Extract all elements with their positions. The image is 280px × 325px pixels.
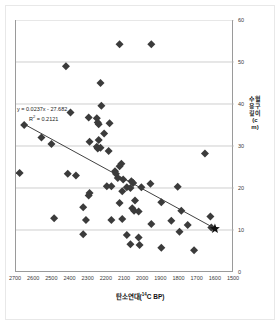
x-tick-label-2300: 2300 (82, 275, 94, 282)
data-point (118, 215, 126, 223)
y-tick-label-20: 20 (238, 185, 244, 191)
data-point (126, 240, 134, 248)
data-point (177, 207, 185, 215)
data-point (79, 230, 87, 238)
y-tick-label-30: 30 (238, 143, 244, 149)
r-squared-value: = 0.2121 (35, 116, 58, 122)
data-point (106, 119, 114, 127)
y-tick-label-50: 50 (238, 59, 244, 65)
data-point (167, 217, 175, 225)
data-point (96, 79, 104, 87)
x-axis-title-tail: C BP) (147, 293, 165, 300)
y-axis-title: 수혈 용구깊이(cm) (249, 96, 261, 131)
data-point (67, 108, 75, 116)
data-point (157, 244, 165, 252)
x-tick-label-2700: 2700 (9, 275, 21, 282)
x-tick-label-2500: 2500 (45, 275, 57, 282)
x-tick-label-2000: 2000 (136, 275, 148, 282)
x-tick-label-1700: 1700 (191, 275, 203, 282)
data-point (147, 40, 155, 48)
x-tick-label-1600: 1600 (209, 275, 221, 282)
regression-r-squared-line: R2 = 0.2121 (17, 113, 67, 123)
data-point (85, 113, 93, 121)
data-point (107, 182, 115, 190)
data-point (64, 170, 72, 178)
data-point (206, 213, 214, 221)
data-point (176, 228, 184, 236)
y-tick-label-40: 40 (238, 101, 244, 107)
x-axis-title: 탄소연대(14C BP) (0, 291, 280, 301)
data-point (190, 246, 198, 254)
x-tick-label-1800: 1800 (172, 275, 184, 282)
y-axis-ticks: 0102030405060 (235, 20, 257, 272)
x-axis-title-main: 탄소연대( (116, 293, 142, 300)
regression-equation-annotation: y = 0.0237x - 27.682 R2 = 0.2121 (17, 105, 67, 123)
plot-svg (16, 20, 234, 272)
data-point (116, 40, 124, 48)
x-tick-label-1900: 1900 (154, 275, 166, 282)
data-point (184, 221, 192, 229)
x-tick-label-2100: 2100 (118, 275, 130, 282)
data-point (100, 129, 108, 137)
plot-area (15, 20, 233, 272)
data-point (136, 241, 144, 249)
data-point (50, 214, 58, 222)
data-point (147, 220, 155, 228)
y-tick-label-60: 60 (238, 17, 244, 23)
data-point (174, 183, 182, 191)
scatter-chart-figure: 0102030405060 수혈 용구깊이(cm) 27002600250024… (0, 0, 280, 325)
x-tick-label-2400: 2400 (63, 275, 75, 282)
data-point (79, 203, 87, 211)
data-point (16, 169, 24, 177)
data-point (82, 216, 90, 224)
y-tick-label-10: 10 (238, 227, 244, 233)
data-point (146, 180, 154, 188)
regression-equation-line: y = 0.0237x - 27.682 (17, 106, 67, 112)
data-point (201, 150, 209, 158)
x-tick-label-1500: 1500 (227, 275, 239, 282)
data-point (135, 234, 143, 242)
data-point (105, 147, 113, 155)
x-tick-label-2200: 2200 (100, 275, 112, 282)
data-point (107, 216, 115, 224)
data-point (157, 198, 165, 206)
x-tick-label-2600: 2600 (27, 275, 39, 282)
x-axis-ticks: 2700260025002400230022002100200019001800… (15, 275, 233, 285)
data-point (97, 102, 105, 110)
data-point (72, 171, 80, 179)
data-point (116, 199, 124, 207)
data-point (95, 136, 103, 144)
data-point (86, 138, 94, 146)
data-point (123, 231, 131, 239)
data-point (131, 197, 139, 205)
data-point (62, 62, 70, 70)
